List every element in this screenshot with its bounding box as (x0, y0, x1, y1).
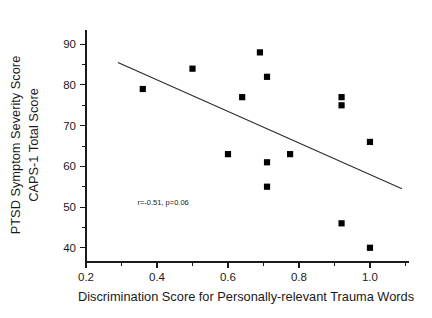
x-axis-title: Discrimination Score for Personally-rele… (78, 289, 414, 304)
data-point-marker (239, 94, 245, 100)
data-point-marker (189, 66, 195, 72)
plot-canvas: PTSD Symptom Severity Score CAPS-1 Total… (0, 0, 432, 318)
x-tick-label: 0.6 (220, 271, 236, 283)
y-axis-title: PTSD Symptom Severity Score CAPS-1 Total… (8, 56, 41, 235)
data-point-marker (264, 184, 270, 190)
x-tick-label: 0.8 (291, 271, 307, 283)
data-points (140, 49, 373, 251)
data-point-marker (264, 159, 270, 165)
y-tick-label: 60 (63, 160, 76, 172)
y-tick-label: 50 (63, 201, 76, 213)
y-tick-label: 80 (63, 79, 76, 91)
data-point-marker (225, 151, 231, 157)
y-tick-label: 70 (63, 120, 76, 132)
data-point-marker (367, 139, 373, 145)
data-point-marker (338, 102, 344, 108)
y-tick-label: 40 (63, 242, 76, 254)
data-point-marker (287, 151, 293, 157)
x-axis-ticks: 0.20.40.60.81.0 (78, 262, 405, 283)
correlation-stat-text: r=-0.51, p=0.06 (137, 198, 188, 207)
data-point-marker (140, 86, 146, 92)
data-point-marker (257, 49, 263, 55)
regression-fit-line (118, 63, 402, 189)
correlation-annotation: r=-0.51, p=0.06 (137, 198, 188, 207)
x-tick-label: 0.4 (149, 271, 166, 283)
scatter-plot-figure: PTSD Symptom Severity Score CAPS-1 Total… (0, 0, 432, 318)
y-axis-ticks: 405060708090 (63, 38, 86, 254)
y-tick-label: 90 (63, 38, 76, 50)
data-point-marker (264, 74, 270, 80)
data-point-marker (367, 245, 373, 251)
x-tick-label: 1.0 (362, 271, 378, 283)
regression-line (118, 63, 402, 189)
y-axis-title-line1: PTSD Symptom Severity Score (8, 56, 23, 235)
data-point-marker (338, 94, 344, 100)
x-tick-label: 0.2 (78, 271, 94, 283)
data-point-marker (338, 220, 344, 226)
y-axis-title-line2: CAPS-1 Total Score (26, 88, 41, 202)
